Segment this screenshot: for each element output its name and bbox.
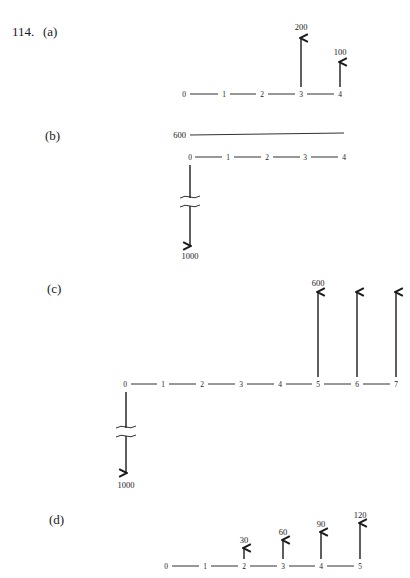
cash-flow-amount: 100 <box>334 47 347 57</box>
period-tick: 4 <box>278 380 282 389</box>
period-tick: 1 <box>203 562 207 571</box>
cash-flow-diagram-a: 0 1 2 3 4 200 100 <box>182 22 346 99</box>
cash-flow-amount: 1000 <box>182 251 199 261</box>
cash-flow-amount: 90 <box>317 519 326 529</box>
cash-flow-amount: 200 <box>295 22 308 32</box>
cash-flow-diagram-b: 600 0 1 2 3 4 1000 <box>173 130 346 261</box>
period-tick: 7 <box>394 380 398 389</box>
cash-flow-amount: 60 <box>279 527 288 537</box>
level-amount: 600 <box>173 130 186 140</box>
cash-flow-diagram-d: 0 1 2 3 4 5 30 60 90 120 <box>164 510 366 571</box>
period-tick: 3 <box>239 380 243 389</box>
period-tick: 5 <box>316 380 320 389</box>
cash-flow-amount: 1000 <box>118 480 135 490</box>
period-tick: 4 <box>342 153 346 162</box>
cash-flow-amount: 600 <box>312 278 325 288</box>
period-tick: 3 <box>299 90 303 99</box>
cash-flow-diagram-c: 0 1 2 3 4 5 6 7 1000 600 <box>116 278 398 490</box>
down-arrow-icon <box>116 392 136 473</box>
period-tick: 4 <box>319 562 323 571</box>
period-tick: 5 <box>358 562 362 571</box>
period-tick: 0 <box>123 380 127 389</box>
period-tick: 2 <box>200 380 204 389</box>
period-tick: 0 <box>188 153 192 162</box>
level-line <box>190 133 344 135</box>
period-tick: 2 <box>265 153 269 162</box>
period-tick: 1 <box>161 380 165 389</box>
period-tick: 0 <box>182 90 186 99</box>
down-arrow-icon <box>180 165 200 246</box>
cash-flow-amount: 120 <box>354 510 367 520</box>
period-tick: 4 <box>338 90 342 99</box>
period-tick: 1 <box>222 90 226 99</box>
period-tick: 2 <box>260 90 264 99</box>
period-tick: 2 <box>242 562 246 571</box>
period-tick: 3 <box>303 153 307 162</box>
period-tick: 0 <box>164 562 168 571</box>
cash-flow-amount: 30 <box>240 535 249 545</box>
period-tick: 6 <box>355 380 359 389</box>
period-tick: 1 <box>226 153 230 162</box>
period-tick: 3 <box>281 562 285 571</box>
